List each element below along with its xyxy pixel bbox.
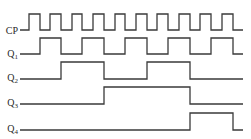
signal-label-q4: Q4 — [7, 123, 18, 136]
waveform-q4 — [20, 113, 243, 130]
waveform-q1 — [20, 38, 243, 54]
waveform-cp — [20, 14, 243, 30]
signal-waveforms — [20, 14, 243, 130]
waveform-q3 — [20, 87, 243, 104]
signal-label-q2: Q2 — [7, 72, 18, 85]
signal-label-q1: Q1 — [7, 48, 18, 61]
waveform-q2 — [20, 62, 243, 79]
signal-label-cp: CP — [6, 25, 19, 36]
timing-diagram: CPQ1Q2Q3Q4 — [0, 0, 251, 139]
signal-labels: CPQ1Q2Q3Q4 — [6, 25, 19, 136]
signal-label-q3: Q3 — [7, 97, 18, 110]
